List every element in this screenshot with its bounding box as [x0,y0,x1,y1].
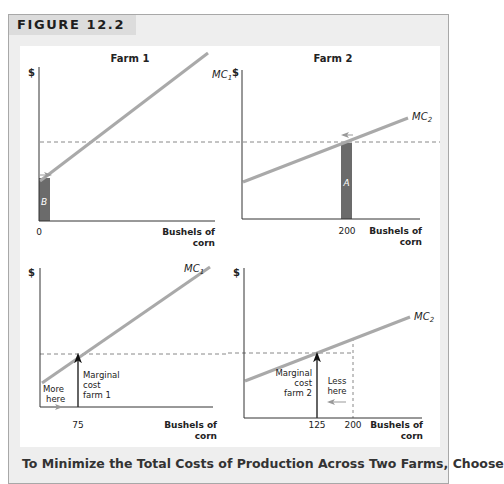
area-a-label: A [342,178,349,188]
less-here-2: here [327,386,346,396]
area-b-label: B [41,197,47,207]
farm2b-x-tick-125: 125 [308,420,325,430]
less-here-1: Less [328,376,347,386]
farm1b-x-label-1: Bushels of [164,420,217,430]
mc2-curve-bottom [245,317,410,381]
more-here-2: here [46,394,65,404]
farm2b-y-label: $ [233,267,240,278]
farm2-y-label: $ [232,67,239,78]
farm1b-y-label: $ [28,267,35,278]
farm1-mc-label: MC1 [212,69,232,82]
farm2b-x-label-1: Bushels of [370,420,423,430]
farm2-title: Farm 2 [314,53,353,64]
chart-farm1-top: Farm 1 $ B MC1 0 Bushels of corn [28,53,232,248]
farm2b-mc-label: MC2 [414,311,435,324]
farm2-x-label-2: corn [400,237,422,247]
chart-farm1-bottom: $ MC1 Marginal cost farm 1 More here 75 … [28,263,228,441]
mc1-curve-bottom [42,267,210,383]
farm1-y-label: $ [28,67,35,78]
farm2-x-label-1: Bushels of [369,226,422,236]
farm2-x-tick: 200 [338,226,355,236]
farm1b-x-label-2: corn [195,431,217,441]
farm2b-x-label-2: corn [401,431,423,441]
farm1-x-tick: 0 [36,227,42,237]
farm1-x-label-1: Bushels of [162,227,215,237]
chart-farm2-top: Farm 2 $ A MC2 200 Bushels of corn [232,53,433,247]
mc2-curve-top [243,118,408,182]
farm2-mc-label: MC2 [412,111,433,124]
farm1-title: Farm 1 [111,53,150,64]
figure-caption: To Minimize the Total Costs of Productio… [22,456,504,471]
farm2-mc-annot-3: farm 2 [284,388,312,398]
farm1b-mc-label: MC1 [184,263,204,276]
farm1-mc-annot-2: cost [83,380,101,390]
mc1-curve-top [40,53,208,181]
farm2-mc-annot-2: cost [294,378,312,388]
farm1b-x-tick: 75 [72,420,83,430]
more-here-1: More [43,384,64,394]
farm2-mc-annot-1: Marginal [275,368,312,378]
farm2b-x-tick-200: 200 [344,420,361,430]
farm1-x-label-2: corn [193,238,215,248]
chart-farm2-bottom: $ MC2 Marginal cost farm 2 Less here 125… [228,267,435,441]
farm1-mc-annot-1: Marginal [83,370,120,380]
farm1-mc-annot-3: farm 1 [83,390,111,400]
